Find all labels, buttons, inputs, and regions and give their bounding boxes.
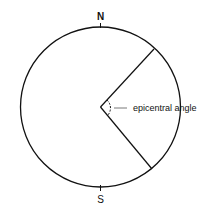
radius-line-upper (101, 49, 155, 107)
epicentral-angle-diagram: N S epicentral angle (0, 0, 219, 214)
angle-arc (107, 100, 110, 115)
south-label: S (97, 194, 104, 205)
north-label: N (97, 11, 104, 22)
angle-label: epicentral angle (133, 103, 197, 113)
radius-line-lower (101, 107, 153, 169)
